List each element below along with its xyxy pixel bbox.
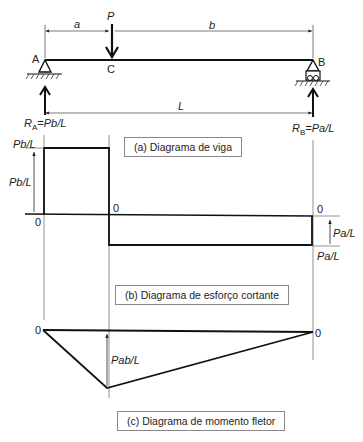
shear-neg-bottom-label: Pa/L xyxy=(317,250,340,262)
reaction-a-label: RA=Pb/L xyxy=(24,117,66,132)
shear-neg-height-label: Pa/L xyxy=(333,227,356,239)
shear-zero-left: 0 xyxy=(35,216,41,228)
dim-L-label: L xyxy=(178,100,184,112)
moment-zero-left: 0 xyxy=(35,324,41,336)
reaction-arrow-left-icon xyxy=(40,87,50,115)
caption-shear-diagram: (b) Diagrama de esforço cortante xyxy=(115,285,289,305)
load-label: P xyxy=(107,10,115,22)
shear-zero-mid: 0 xyxy=(113,202,119,214)
support-a-label: A xyxy=(32,53,40,65)
moment-zero-right: 0 xyxy=(315,327,321,339)
point-c-label: C xyxy=(107,63,115,75)
reaction-b-label: RB=Pa/L xyxy=(292,122,334,137)
caption-beam-diagram: (a) Diagrama de viga xyxy=(124,137,242,157)
moment-max-label: Pab/L xyxy=(111,354,140,366)
caption-moment-diagram: (c) Diagrama de momento fletor xyxy=(117,411,285,431)
dim-a-label: a xyxy=(74,18,80,30)
shear-zero-right: 0 xyxy=(317,203,323,215)
dim-b-label: b xyxy=(209,19,215,31)
shear-top-label: Pb/L xyxy=(13,138,36,150)
shear-height-label: Pb/L xyxy=(9,176,32,188)
support-b-label: B xyxy=(318,56,325,68)
shear-diagram xyxy=(25,135,340,398)
load-arrow-icon xyxy=(106,24,118,57)
moment-diagram xyxy=(43,330,313,388)
beam-diagram-canvas: P a b A B C L RA=Pb/L RB=Pa/L Pb/L Pb/L … xyxy=(0,0,363,442)
